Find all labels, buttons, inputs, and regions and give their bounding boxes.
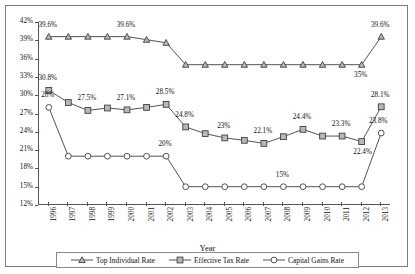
- series-line: [49, 37, 381, 65]
- data-point-label: 28.1%: [371, 92, 390, 99]
- x-axis-tick: [263, 202, 264, 206]
- x-axis-tick-label: 2000: [129, 207, 136, 221]
- data-point-label: 39.6%: [117, 22, 136, 29]
- x-axis-tick-label: 2013: [383, 207, 390, 221]
- x-axis-tick: [146, 202, 147, 206]
- y-axis: 42%39%36%33%30%27%24%21%18%15%12%: [0, 0, 38, 205]
- data-point-marker: [359, 184, 365, 190]
- data-point-marker: [222, 184, 228, 190]
- series-lines: [39, 22, 391, 205]
- x-axis-tick-label: 1999: [109, 207, 116, 221]
- data-point-marker: [300, 184, 306, 190]
- data-point-marker: [183, 124, 189, 130]
- legend-item-label: Top Individual Rate: [96, 256, 155, 265]
- data-point-marker: [359, 139, 365, 145]
- y-axis-tick-label: 21%: [20, 146, 33, 153]
- x-axis-tick-label: 2006: [246, 207, 253, 221]
- legend-triangle-icon: [71, 255, 93, 265]
- x-axis-tick-label: 2010: [325, 207, 332, 221]
- data-point-marker: [339, 184, 345, 190]
- y-axis-tick-label: 39%: [20, 37, 33, 44]
- x-axis-tick: [165, 202, 166, 206]
- y-axis-tick-label: 36%: [20, 55, 33, 62]
- series-top-individual-rate: [46, 33, 385, 67]
- data-point-marker: [378, 130, 384, 136]
- x-axis-tick: [67, 202, 68, 206]
- x-axis-tick: [204, 202, 205, 206]
- data-point-marker: [163, 101, 169, 107]
- data-point-label: 24.8%: [175, 112, 194, 119]
- y-axis-tick-label: 42%: [20, 18, 33, 25]
- data-point-label: 22.4%: [353, 149, 372, 156]
- data-point-marker: [85, 108, 91, 114]
- data-point-label: 27.1%: [117, 95, 136, 102]
- data-point-marker: [85, 153, 91, 159]
- data-point-marker: [281, 184, 287, 190]
- series-effective-tax-rate: [46, 87, 384, 146]
- chart-legend: Top Individual RateEffective Tax RateCap…: [56, 252, 359, 268]
- data-point-marker: [144, 153, 150, 159]
- data-point-label: 22.1%: [254, 129, 273, 136]
- data-point-label: 39.6%: [38, 22, 57, 29]
- x-axis-tick: [282, 202, 283, 206]
- data-point-marker: [281, 134, 287, 140]
- x-axis-tick-label: 2005: [227, 207, 234, 221]
- y-axis-tick-label: 24%: [20, 128, 33, 135]
- data-point-marker: [65, 153, 71, 159]
- legend-item[interactable]: Effective Tax Rate: [169, 255, 249, 265]
- x-axis-tick-label: 2009: [305, 207, 312, 221]
- x-axis-tick: [185, 202, 186, 206]
- x-axis-tick-label: 2003: [188, 207, 195, 221]
- y-axis-tick-label: 15%: [20, 183, 33, 190]
- data-point-label: 20%: [159, 141, 172, 148]
- data-point-marker: [65, 100, 71, 106]
- x-axis-tick: [87, 202, 88, 206]
- x-axis-tick-label: 2002: [168, 207, 175, 221]
- data-point-marker: [261, 184, 267, 190]
- data-point-marker: [46, 105, 52, 111]
- legend-item[interactable]: Capital Gains Rate: [263, 255, 344, 265]
- x-axis-tick-label: 1996: [51, 207, 58, 221]
- data-point-label: 23.3%: [332, 121, 351, 128]
- data-point-marker: [320, 133, 326, 139]
- y-axis-tick-label: 12%: [20, 201, 33, 208]
- series-line: [49, 90, 381, 143]
- series-line: [49, 107, 381, 186]
- x-axis-tick: [106, 202, 107, 206]
- data-point-marker: [183, 184, 189, 190]
- x-axis-tick-label: 2012: [364, 207, 371, 221]
- x-axis-tick-label: 2008: [285, 207, 292, 221]
- data-point-marker: [339, 133, 345, 139]
- legend-circle-icon: [263, 255, 285, 265]
- series-capital-gains-rate: [46, 105, 384, 190]
- x-axis-tick: [380, 202, 381, 206]
- x-axis-tick-label: 2001: [149, 207, 156, 221]
- x-axis-tick-label: 1997: [70, 207, 77, 221]
- data-point-marker: [241, 184, 247, 190]
- data-point-label: 28.5%: [156, 90, 175, 97]
- x-axis-tick: [341, 202, 342, 206]
- y-axis-tick-label: 33%: [20, 73, 33, 80]
- data-point-marker: [202, 184, 208, 190]
- data-point-marker: [202, 131, 208, 137]
- data-point-label: 30.8%: [38, 76, 57, 83]
- legend-item[interactable]: Top Individual Rate: [71, 255, 155, 265]
- x-axis-tick-label: 2004: [207, 207, 214, 221]
- data-point-marker: [261, 140, 267, 146]
- y-axis-tick-label: 30%: [20, 92, 33, 99]
- data-point-marker: [163, 153, 169, 159]
- x-axis-tick: [302, 202, 303, 206]
- data-point-label: 35%: [354, 72, 367, 79]
- chart-figure: 42%39%36%33%30%27%24%21%18%15%12% 199619…: [0, 0, 415, 274]
- x-axis-tick: [126, 202, 127, 206]
- data-point-label: 27.5%: [78, 96, 97, 103]
- data-point-marker: [300, 126, 306, 132]
- data-point-marker: [105, 105, 111, 111]
- x-axis-tick: [361, 202, 362, 206]
- x-axis-tick-label: 2007: [266, 207, 273, 221]
- data-point-label: 24.4%: [293, 115, 312, 122]
- data-point-marker: [271, 257, 277, 263]
- data-point-marker: [124, 153, 130, 159]
- plot-area: [38, 22, 390, 205]
- data-point-label: 23%: [217, 123, 230, 130]
